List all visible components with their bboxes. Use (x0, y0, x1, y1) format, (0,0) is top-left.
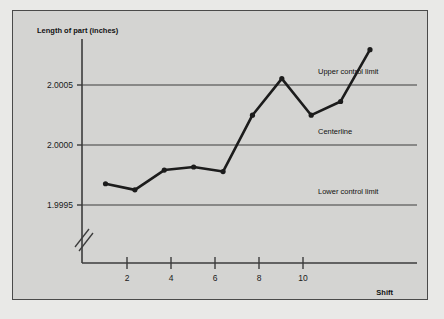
data-point (103, 181, 108, 186)
lower-control-limit-label: Lower control limit (318, 187, 379, 196)
x-tick-label-2: 2 (125, 273, 130, 283)
y-axis-title: Length of part (inches) (37, 26, 119, 35)
data-point (338, 99, 343, 104)
chart-figure: Length of part (inches) 2.0005 2.0000 1.… (12, 10, 428, 300)
data-point (309, 113, 314, 118)
x-tick-label-10: 10 (298, 273, 308, 283)
data-point (220, 169, 225, 174)
data-point (367, 47, 372, 52)
data-point (162, 167, 167, 172)
chart-canvas: Length of part (inches) 2.0005 2.0000 1.… (13, 11, 429, 301)
data-point (250, 113, 255, 118)
data-point (279, 76, 284, 81)
x-tick-label-8: 8 (257, 273, 262, 283)
centerline-label: Centerline (318, 127, 352, 136)
x-tick-label-4: 4 (169, 273, 174, 283)
y-tick-label-1.9995: 1.9995 (47, 200, 73, 210)
data-point (191, 164, 196, 169)
y-tick-label-2.0000: 2.0000 (47, 140, 73, 150)
upper-control-limit-label: Upper control limit (318, 67, 379, 76)
axis-break-icon (75, 229, 93, 251)
data-point (132, 187, 137, 192)
x-tick-label-6: 6 (213, 273, 218, 283)
y-tick-label-2.0005: 2.0005 (47, 80, 73, 90)
x-axis-title: Shift (376, 288, 393, 297)
